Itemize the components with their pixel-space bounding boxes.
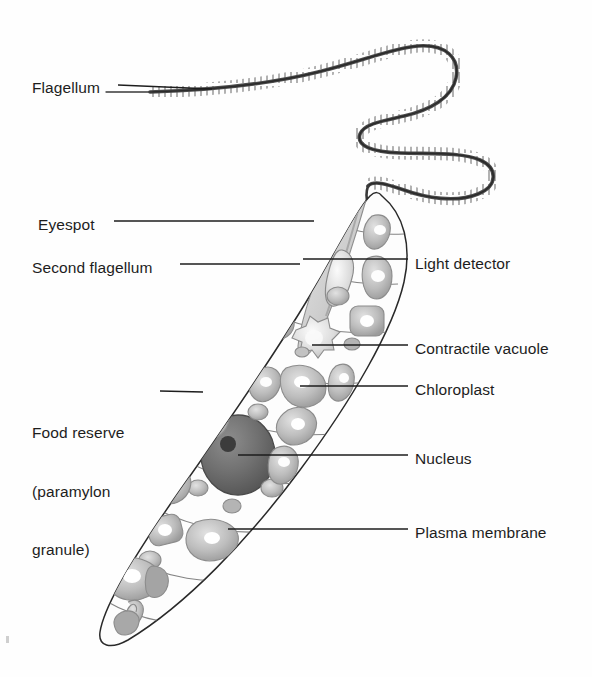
label-second-flagellum: Second flagellum	[32, 258, 153, 278]
scan-artifact-speck	[6, 636, 9, 643]
label-contractile-vacuole: Contractile vacuole	[415, 339, 549, 359]
paramylon-granule	[191, 382, 217, 404]
label-chloroplast: Chloroplast	[415, 380, 495, 400]
flagellum-structure	[106, 46, 493, 204]
label-food-reserve-line1: Food reserve	[32, 423, 125, 443]
label-food-reserve-line2: (paramylon	[32, 482, 125, 502]
label-light-detector: Light detector	[415, 254, 510, 274]
label-plasma-membrane: Plasma membrane	[415, 523, 547, 543]
label-nucleus: Nucleus	[415, 449, 472, 469]
label-food-reserve-line3: granule)	[32, 540, 125, 560]
label-eyespot: Eyespot	[38, 215, 95, 235]
label-flagellum: Flagellum	[32, 78, 100, 98]
leader-food-reserve	[160, 391, 203, 392]
label-food-reserve: Food reserve (paramylon granule)	[32, 384, 125, 579]
diagram-canvas: Flagellum Eyespot Second flagellum Food …	[0, 0, 592, 677]
nucleolus	[220, 436, 236, 452]
